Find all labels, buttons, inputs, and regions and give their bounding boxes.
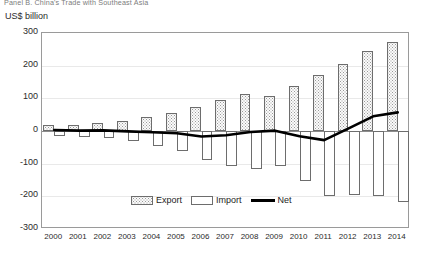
y-axis-tick-label: -300 xyxy=(2,222,38,232)
x-axis-tick-label: 2000 xyxy=(44,232,62,241)
x-axis-tick-label: 2012 xyxy=(339,232,357,241)
chart-figure: Panel B. China's Trade with Southeast As… xyxy=(0,0,425,256)
legend-label-net: Net xyxy=(278,195,292,205)
x-axis-tick-label: 2010 xyxy=(290,232,308,241)
x-axis-ticks: 2000200120022003200420052006200720082009… xyxy=(41,232,409,246)
x-axis-tick-label: 2005 xyxy=(167,232,185,241)
x-axis-tick-label: 2004 xyxy=(142,232,160,241)
net-line xyxy=(54,112,397,140)
legend-item-net: Net xyxy=(251,195,292,205)
x-axis-tick-label: 2007 xyxy=(216,232,234,241)
x-axis-tick-label: 2002 xyxy=(93,232,111,241)
x-axis-tick-label: 2013 xyxy=(363,232,381,241)
legend-label-export: Export xyxy=(156,195,182,205)
y-axis-tick-label: 100 xyxy=(2,91,38,101)
legend-item-export: Export xyxy=(131,195,182,205)
chart-legend: Export Import Net xyxy=(131,195,292,205)
chart-title: Panel B. China's Trade with Southeast As… xyxy=(4,0,424,7)
y-axis-tick-label: -100 xyxy=(2,157,38,167)
legend-item-import: Import xyxy=(191,195,242,205)
legend-label-import: Import xyxy=(216,195,242,205)
x-axis-tick-label: 2008 xyxy=(241,232,259,241)
export-swatch-icon xyxy=(131,196,153,205)
x-axis-tick-label: 2003 xyxy=(118,232,136,241)
y-axis-tick-label: 200 xyxy=(2,59,38,69)
x-axis-tick-label: 2009 xyxy=(265,232,283,241)
y-axis-tick-label: 300 xyxy=(2,26,38,36)
y-axis-label: US$ billion xyxy=(5,11,48,21)
y-axis-ticks: 3002001000-100-200-300 xyxy=(0,32,38,228)
x-axis-tick-label: 2006 xyxy=(192,232,210,241)
x-axis-tick-label: 2001 xyxy=(69,232,87,241)
net-swatch-icon xyxy=(251,199,275,202)
import-swatch-icon xyxy=(191,196,213,205)
x-axis-tick-label: 2014 xyxy=(388,232,406,241)
y-axis-tick-label: 0 xyxy=(2,124,38,134)
x-axis-tick-label: 2011 xyxy=(315,232,332,241)
y-axis-tick-label: -200 xyxy=(2,189,38,199)
